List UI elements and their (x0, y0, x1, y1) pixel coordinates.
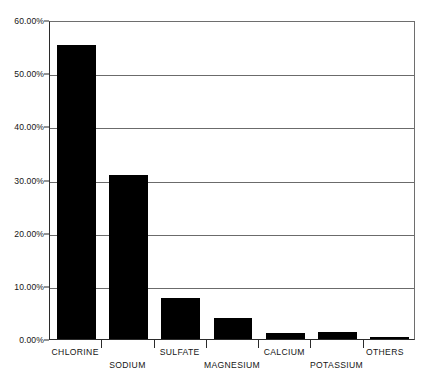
y-axis-tick-label: 40.00% (0, 122, 44, 132)
y-axis-tick-label: 60.00% (0, 16, 44, 26)
x-axis-label-chlorine: CHLORINE (52, 347, 99, 357)
y-axis-tick-label: 20.00% (0, 229, 44, 239)
x-axis-label-sodium: SODIUM (109, 360, 145, 370)
bar-chart: 0.00%10.00%20.00%30.00%40.00%50.00%60.00… (0, 0, 431, 372)
x-axis-label-magnesium: MAGNESIUM (204, 360, 260, 370)
x-axis-tick-mark (363, 340, 364, 348)
x-axis-label-sulfate: SULFATE (160, 347, 200, 357)
bar-sodium (109, 175, 148, 339)
y-axis-tick-mark (44, 340, 49, 341)
gridline (50, 182, 414, 183)
y-axis-tick-mark (44, 21, 49, 22)
plot-area (49, 21, 415, 340)
x-axis-tick-mark (101, 340, 102, 348)
y-axis-tick-mark (44, 180, 49, 181)
y-axis-tick-label: 30.00% (0, 176, 44, 186)
x-axis-label-calcium: CALCIUM (264, 347, 305, 357)
y-axis-tick-mark (44, 286, 49, 287)
y-axis-tick-mark (44, 74, 49, 75)
x-axis-tick-mark (310, 340, 311, 348)
x-axis-label-potassium: POTASSIUM (310, 360, 363, 370)
bar-magnesium (214, 318, 253, 339)
x-axis-label-others: OTHERS (366, 347, 404, 357)
gridline (50, 128, 414, 129)
y-axis-tick-mark (44, 233, 49, 234)
gridline (50, 288, 414, 289)
bar-calcium (266, 333, 305, 339)
y-axis-tick-mark (44, 127, 49, 128)
bar-chlorine (57, 45, 96, 339)
y-axis-tick-label: 50.00% (0, 69, 44, 79)
bar-others (370, 337, 409, 339)
bar-potassium (318, 332, 357, 339)
x-axis-tick-mark (154, 340, 155, 348)
y-axis-tick-label: 0.00% (0, 335, 44, 345)
gridline (50, 235, 414, 236)
x-axis-tick-mark (258, 340, 259, 348)
x-axis-tick-mark (206, 340, 207, 348)
gridline (50, 75, 414, 76)
y-axis-tick-label: 10.00% (0, 282, 44, 292)
bar-sulfate (161, 298, 200, 339)
